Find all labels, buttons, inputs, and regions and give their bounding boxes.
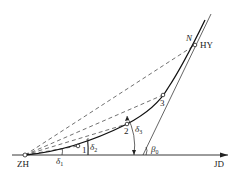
- label-zh: ZH: [17, 160, 29, 169]
- label-hy: HY: [200, 41, 213, 50]
- tangent-line-2: [143, 14, 211, 155]
- label-n: N: [186, 34, 192, 43]
- point-hy: [193, 43, 197, 47]
- arrow-icon: [132, 150, 136, 155]
- point-1: [76, 144, 80, 148]
- spiral-curve: [25, 20, 205, 155]
- label-delta-1: δ1: [56, 157, 63, 167]
- label-point-3: 3: [160, 99, 165, 108]
- label-point-1: 1: [82, 146, 87, 155]
- label-beta-0: β0: [151, 145, 158, 155]
- angle-arcs: [62, 116, 147, 155]
- label-delta-2: δ2: [90, 143, 97, 153]
- point-3: [161, 93, 165, 97]
- label-delta-3: δ3: [135, 125, 142, 135]
- label-point-2: 2: [124, 127, 129, 136]
- label-jd: JD: [214, 160, 224, 169]
- arrow-icon: [220, 153, 228, 158]
- point-zh: [23, 153, 27, 157]
- spiral-curve-diagram: [0, 0, 240, 184]
